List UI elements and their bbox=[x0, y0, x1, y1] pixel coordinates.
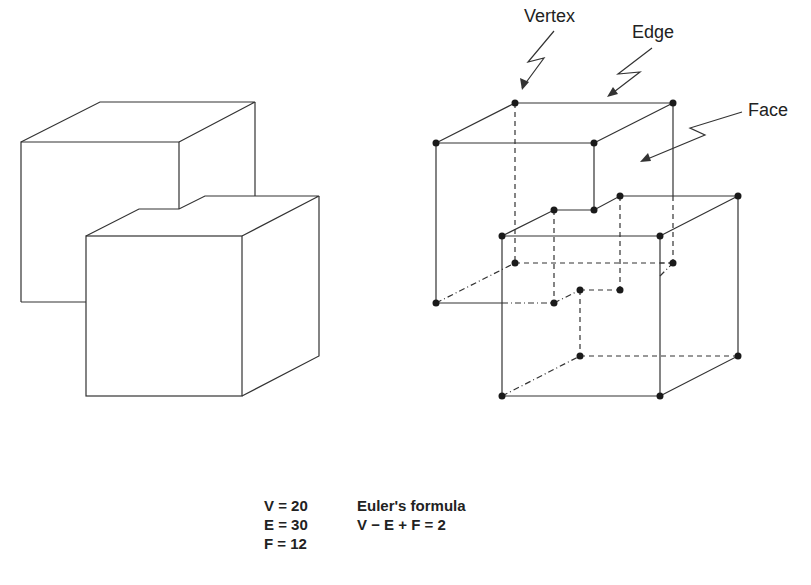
formula-title: Euler's formula bbox=[357, 496, 466, 515]
vertex-arrow-icon bbox=[522, 31, 554, 88]
edge-arrow-icon bbox=[610, 48, 652, 95]
face-count: F = 12 bbox=[264, 534, 308, 553]
face-label: Face bbox=[748, 100, 788, 120]
formula-equation: V − E + F = 2 bbox=[357, 515, 466, 534]
vertex-dots bbox=[433, 100, 742, 400]
face-arrow-icon bbox=[645, 112, 742, 160]
solid-cubes-figure bbox=[21, 102, 319, 396]
wireframe-figure bbox=[436, 103, 738, 396]
counts-block: V = 20 E = 30 F = 12 bbox=[264, 496, 308, 553]
vertex-count: V = 20 bbox=[264, 496, 308, 515]
vertex-label: Vertex bbox=[524, 6, 575, 26]
edge-label: Edge bbox=[632, 22, 674, 42]
callouts: Vertex Edge Face bbox=[520, 6, 788, 162]
formula-block: Euler's formula V − E + F = 2 bbox=[357, 496, 466, 534]
edge-count: E = 30 bbox=[264, 515, 308, 534]
